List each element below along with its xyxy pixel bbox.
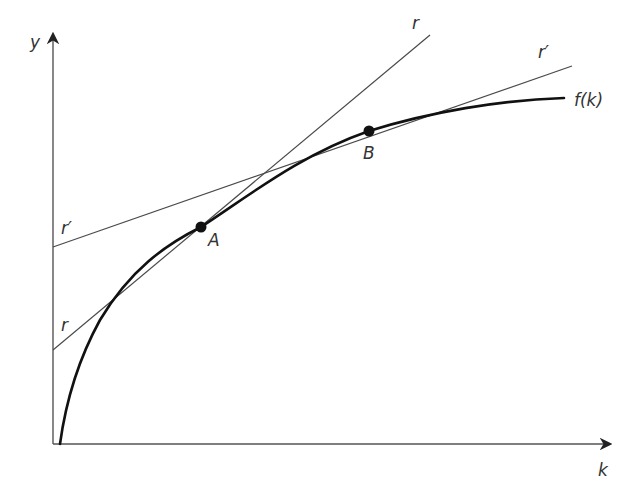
point-a-label: A: [207, 230, 220, 250]
curve-fk-path: [60, 98, 564, 444]
line-r-intercept-label: r: [61, 315, 69, 335]
y-axis-label: y: [29, 32, 41, 52]
point-b-label: B: [363, 143, 375, 163]
curve-fk-label: f(k): [574, 90, 603, 110]
line-r-path: [53, 35, 430, 350]
line-r-end-label: r: [412, 13, 420, 33]
point-a: A: [196, 222, 220, 251]
x-axis-label: k: [598, 460, 609, 480]
curve-fk: f(k): [60, 90, 603, 444]
point-b-marker: [364, 126, 375, 137]
production-function-diagram: y k r r r′ r′ f(k) A B: [0, 0, 634, 502]
line-r-prime-intercept-label: r′: [61, 218, 72, 238]
line-r-prime: r′ r′: [53, 42, 572, 247]
point-a-marker: [196, 222, 207, 233]
axes: y k: [29, 32, 609, 480]
line-r-prime-end-label: r′: [538, 42, 549, 62]
point-b: B: [363, 126, 375, 164]
